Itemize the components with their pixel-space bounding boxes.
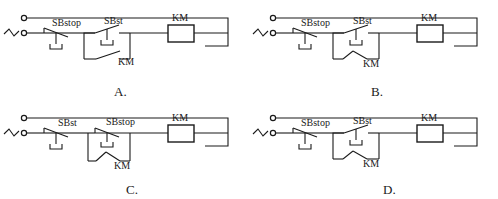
sbstop-label: SBstop xyxy=(301,17,330,28)
terminal-top xyxy=(270,15,275,20)
sbst-label: SBst xyxy=(353,15,372,26)
terminal-bottom xyxy=(21,130,26,135)
sbstop-label: SBstop xyxy=(106,116,135,127)
ac-source-icon xyxy=(253,29,268,36)
km-holding-label: KM xyxy=(363,58,379,69)
terminal-bottom xyxy=(270,130,275,135)
terminal-top xyxy=(270,115,275,120)
km-coil-box xyxy=(417,125,443,142)
sbst-contact-symbol xyxy=(344,125,379,145)
ac-source-icon xyxy=(253,129,268,136)
option-d-diagram: SBstop SBst KM KM D. xyxy=(249,104,498,199)
terminal-top xyxy=(21,15,26,20)
sbst-contact-symbol xyxy=(344,25,379,45)
sbstop-contact-symbol xyxy=(293,128,317,149)
option-c-diagram: SBst SBstop KM KM xyxy=(0,104,249,199)
option-b-diagram: SBstop SBst KM KM B. xyxy=(249,4,498,103)
sbstop-contact-symbol xyxy=(44,28,68,49)
km-holding-label: KM xyxy=(118,56,134,67)
terminal-bottom xyxy=(21,30,26,35)
sbstop-contact-symbol xyxy=(95,128,130,147)
terminal-bottom xyxy=(270,30,275,35)
sbst-label: SBst xyxy=(104,15,123,26)
option-a-diagram: SBstop SBst KM KM xyxy=(0,4,249,103)
km-coil-box xyxy=(168,125,194,142)
option-d-caption: D. xyxy=(383,182,396,197)
sbst-label: SBst xyxy=(353,115,372,126)
option-b-caption: B. xyxy=(371,84,383,99)
km-coil-label: KM xyxy=(172,12,188,23)
figure-sheet: SBstop SBst KM KM xyxy=(0,0,498,199)
terminal-top xyxy=(21,115,26,120)
sbstop-contact-symbol xyxy=(293,28,317,49)
km-coil-box xyxy=(168,25,194,42)
ac-source-icon xyxy=(4,129,19,136)
km-coil-label: KM xyxy=(421,112,437,123)
option-c-caption: C. xyxy=(126,182,138,197)
km-coil-label: KM xyxy=(172,112,188,123)
km-holding-label: KM xyxy=(363,158,379,169)
sbst-label: SBst xyxy=(58,117,77,128)
km-coil-box xyxy=(417,25,443,42)
option-a-caption: A. xyxy=(114,84,127,99)
km-holding-label: KM xyxy=(114,160,130,171)
ac-source-icon xyxy=(4,29,19,36)
km-coil-label: KM xyxy=(421,12,437,23)
sbstop-label: SBstop xyxy=(301,117,330,128)
sbst-contact-symbol xyxy=(44,128,68,149)
sbstop-label: SBstop xyxy=(52,17,81,28)
sbst-contact-symbol xyxy=(95,25,130,45)
